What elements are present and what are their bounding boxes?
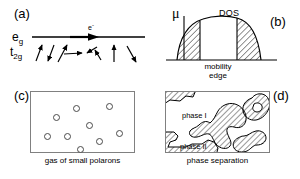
localized-state-tails	[175, 10, 263, 62]
polaron-circle	[106, 103, 113, 110]
core-spin-1	[36, 45, 42, 61]
polaron-circle	[86, 122, 93, 129]
polaron-gas-box	[30, 91, 135, 153]
phase-one-label: phase I	[182, 111, 207, 120]
polaron-circle	[116, 130, 123, 137]
dos-plot-graphic	[155, 0, 300, 88]
core-spin-arrows	[36, 45, 136, 62]
panel-a-double-exchange: (a) eg t2g e-	[0, 0, 155, 88]
panel-c-polaron-gas: (c) gas of small polarons	[0, 86, 155, 179]
panel-d-caption: phase separation	[165, 156, 270, 165]
figure-root: (a) eg t2g e-	[0, 0, 300, 179]
panel-label-c: (c)	[14, 88, 29, 103]
panel-label-d: (d)	[273, 88, 289, 103]
panel-a-graphic	[0, 0, 155, 88]
phase-two-domain-top-right	[243, 94, 270, 120]
polaron-circle	[77, 146, 84, 153]
panel-b-density-of-states: (b) μ DOS mobility edge	[155, 0, 300, 88]
polaron-circle	[64, 133, 71, 140]
polaron-circle	[53, 114, 60, 121]
right-band-tail-hatch	[237, 10, 263, 62]
core-spin-4	[64, 53, 82, 54]
left-band-tail-hatch	[175, 10, 200, 62]
phase-separation-box: phase I phase II	[165, 91, 270, 153]
hopping-electron-arrowhead	[88, 33, 99, 41]
polaron-circle	[44, 133, 51, 140]
polaron-circle	[96, 138, 103, 145]
phase-two-label: phase II	[180, 142, 207, 151]
phase-two-domain-bottom-right	[233, 131, 266, 152]
panel-d-phase-separation: (d) phase I phase II	[155, 86, 300, 179]
phase-two-domain-top-left	[165, 91, 196, 104]
core-spin-6	[95, 50, 101, 60]
core-spin-8	[127, 46, 136, 62]
panel-c-caption: gas of small polarons	[30, 156, 135, 165]
core-spin-2	[48, 45, 54, 61]
polaron-circle	[73, 105, 80, 112]
